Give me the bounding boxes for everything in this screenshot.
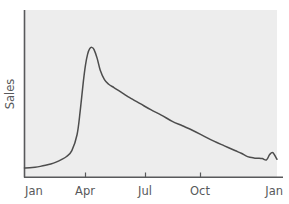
y-axis-title: Sales (3, 79, 17, 110)
sales-line-chart: Sales Jan Apr Jul Oct Jan (0, 0, 289, 204)
x-tick-label-jan-end: Jan (264, 184, 283, 198)
chart-canvas: Sales Jan Apr Jul Oct Jan (0, 0, 289, 204)
x-tick-label-jan-start: Jan (24, 184, 43, 198)
x-tick-label-apr: Apr (75, 184, 95, 198)
x-tick-label-oct: Oct (190, 184, 210, 198)
x-tick-label-jul: Jul (137, 184, 152, 198)
